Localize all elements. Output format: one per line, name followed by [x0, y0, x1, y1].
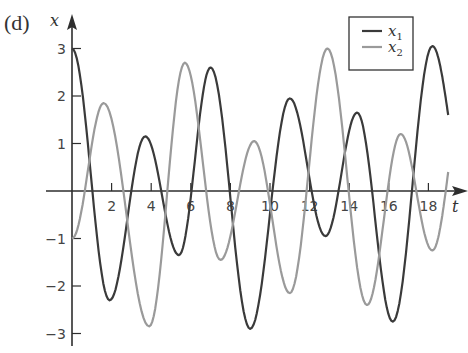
y-tick-label: −2 — [45, 278, 66, 294]
x-tick-label: 18 — [419, 198, 437, 214]
y-tick-label: −1 — [45, 231, 66, 247]
legend: x1x2 — [349, 17, 413, 70]
series-x1 — [72, 46, 448, 329]
x-axis-label: t — [452, 197, 459, 216]
y-axis-label: x — [50, 11, 59, 30]
legend-box — [349, 17, 413, 70]
series-x2 — [72, 49, 448, 327]
x-tick-label: 16 — [380, 198, 398, 214]
y-tick-label: 2 — [57, 88, 66, 104]
y-tick-label: −3 — [45, 326, 66, 342]
curves — [72, 46, 448, 329]
y-tick-label: 3 — [57, 41, 66, 57]
line-chart: tx24681012141618−3−2−1123 x1x2 — [0, 0, 468, 353]
x-tick-label: 4 — [147, 198, 156, 214]
x-tick-label: 2 — [107, 198, 116, 214]
y-tick-label: 1 — [57, 136, 66, 152]
